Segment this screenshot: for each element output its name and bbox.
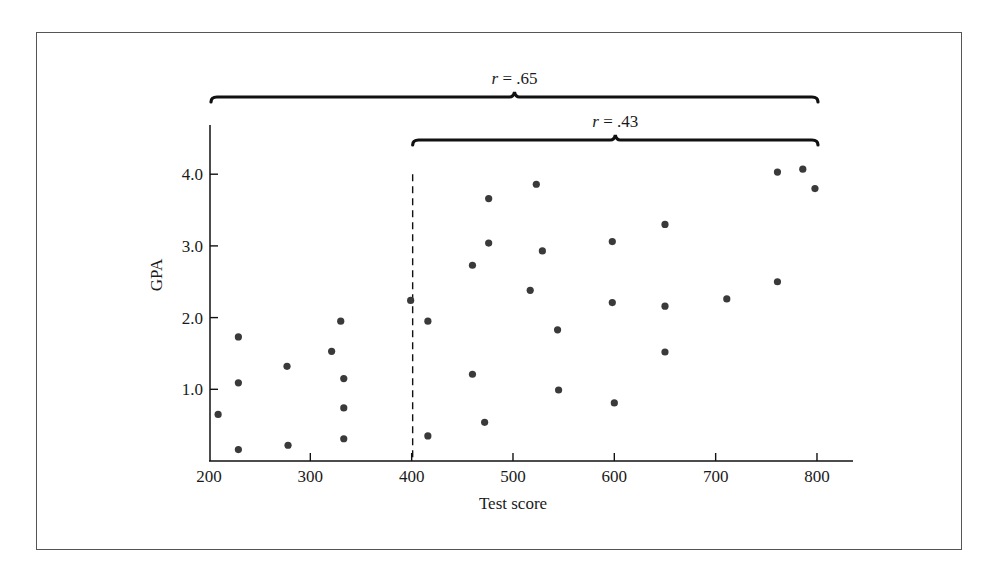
data-point xyxy=(527,287,534,294)
r-label-restricted-range: r = .43 xyxy=(592,112,638,131)
data-point xyxy=(661,303,668,310)
data-point xyxy=(337,318,344,325)
y-axis-title: GPA xyxy=(147,258,166,291)
data-point xyxy=(799,166,806,173)
data-point xyxy=(554,326,561,333)
data-point xyxy=(609,238,616,245)
data-point xyxy=(723,295,730,302)
data-point xyxy=(533,181,540,188)
data-point xyxy=(611,399,618,406)
r-label-full-range: r = .65 xyxy=(492,69,538,88)
data-point xyxy=(661,221,668,228)
x-tick-label: 300 xyxy=(298,467,324,486)
data-point xyxy=(340,375,347,382)
y-tick-label: 2.0 xyxy=(182,309,203,328)
data-point xyxy=(424,318,431,325)
y-tick-label: 3.0 xyxy=(182,237,203,256)
data-point xyxy=(469,262,476,269)
data-point xyxy=(328,348,335,355)
data-point xyxy=(340,404,347,411)
data-point xyxy=(407,297,414,304)
x-tick-label: 600 xyxy=(602,467,628,486)
data-point xyxy=(283,363,290,370)
x-tick-label: 800 xyxy=(804,467,830,486)
brace-full-range: r = .65 xyxy=(211,69,818,102)
scatter-chart: r = .65 r = .43 200300400500600700800 1.… xyxy=(0,0,993,582)
data-point xyxy=(555,386,562,393)
data-point xyxy=(774,168,781,175)
data-point xyxy=(661,348,668,355)
data-point xyxy=(469,371,476,378)
data-point xyxy=(481,419,488,426)
data-point xyxy=(215,411,222,418)
data-point xyxy=(340,435,347,442)
data-points xyxy=(215,166,819,454)
data-point xyxy=(235,446,242,453)
x-axis-ticks: 200300400500600700800 xyxy=(196,453,829,486)
y-axis-ticks: 1.02.03.04.0 xyxy=(182,165,218,399)
x-tick-label: 200 xyxy=(196,467,222,486)
data-point xyxy=(539,247,546,254)
x-tick-label: 400 xyxy=(399,467,425,486)
data-point xyxy=(284,442,291,449)
data-point xyxy=(811,185,818,192)
y-tick-label: 1.0 xyxy=(182,380,203,399)
data-point xyxy=(424,432,431,439)
data-point xyxy=(485,195,492,202)
x-tick-label: 500 xyxy=(500,467,526,486)
data-point xyxy=(235,379,242,386)
y-tick-label: 4.0 xyxy=(182,165,203,184)
brace-restricted-range: r = .43 xyxy=(413,112,818,145)
x-tick-label: 700 xyxy=(703,467,729,486)
data-point xyxy=(609,299,616,306)
data-point xyxy=(485,239,492,246)
x-axis-title: Test score xyxy=(479,494,547,513)
data-point xyxy=(235,333,242,340)
data-point xyxy=(774,278,781,285)
